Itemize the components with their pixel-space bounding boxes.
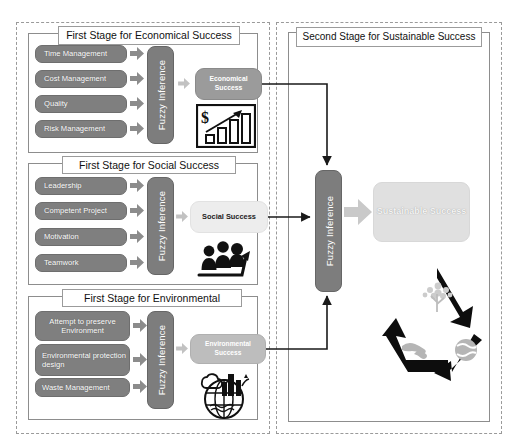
input-pill-environmental-protection-design: Environmental protection design: [35, 344, 130, 376]
arrow-protection-design-to-fuzzy-icon: [133, 353, 147, 366]
fuzzy-inference-economical: Fuzzy Inference: [147, 46, 174, 144]
bar-chart-dollar-growth-icon: $: [196, 104, 256, 148]
input-pill-attempt-to-preserve-environment: Attempt to preserve Environment: [35, 311, 130, 341]
input-pill-cost-management: Cost Management: [35, 70, 127, 88]
arrow-time-to-fuzzy-icon: [130, 47, 144, 60]
recycle-triangle-icon: [378, 262, 496, 384]
fuzzy-inference-label: Fuzzy Inference: [155, 60, 166, 131]
input-pill-competent-project: Competent Project: [35, 202, 127, 220]
input-pill-teamwork: Teamwork: [35, 254, 127, 272]
fuzzy-inference-social: Fuzzy Inference: [147, 177, 174, 275]
arrow-fuzzy-to-sustainable-icon: [344, 198, 372, 226]
arrow-motivation-to-fuzzy-icon: [130, 230, 144, 243]
economical-stage-caption: First Stage for Economical Success: [58, 26, 240, 45]
social-stage-caption: First Stage for Social Success: [62, 156, 236, 174]
environmental-stage-caption: First Stage for Environmental: [62, 289, 242, 307]
diagram-canvas: First Stage for Economical Success First…: [0, 0, 514, 447]
arrow-fuzzy-to-social-icon: [176, 211, 188, 222]
output-social-success: Social Success: [190, 201, 268, 233]
output-environmental-success: Environmental Success: [190, 334, 266, 364]
input-pill-risk-management: Risk Management: [35, 120, 127, 138]
arrow-waste-to-fuzzy-icon: [133, 380, 147, 393]
people-growth-arrow-icon: [196, 237, 258, 279]
svg-text:$: $: [201, 109, 209, 126]
input-pill-motivation: Motivation: [35, 228, 127, 246]
arrow-risk-to-fuzzy-icon: [130, 122, 144, 135]
input-pill-time-management: Time Management: [35, 45, 127, 63]
second-stage-caption: Second Stage for Sustainable Success: [296, 27, 482, 47]
fuzzy-inference-label: Fuzzy Inference: [323, 196, 334, 267]
arrow-preserve-to-fuzzy-icon: [133, 319, 147, 332]
fuzzy-inference-environmental: Fuzzy Inference: [147, 311, 174, 409]
globe-city-nature-icon: [196, 366, 252, 420]
input-pill-leadership: Leadership: [35, 177, 127, 195]
arrow-quality-to-fuzzy-icon: [130, 97, 144, 110]
arrow-teamwork-to-fuzzy-icon: [130, 256, 144, 269]
arrow-cost-to-fuzzy-icon: [130, 72, 144, 85]
output-economical-success: Economical Success: [195, 68, 262, 100]
input-pill-waste-management: Waste Management: [35, 378, 130, 397]
output-sustainable-success: Sustainable Success: [373, 182, 470, 242]
arrow-competent-project-to-fuzzy-icon: [130, 204, 144, 217]
fuzzy-inference-label: Fuzzy Inference: [155, 191, 166, 262]
arrow-fuzzy-to-economical-icon: [178, 78, 190, 89]
fuzzy-inference-second-stage: Fuzzy Inference: [315, 170, 342, 292]
fuzzy-inference-label: Fuzzy Inference: [155, 325, 166, 396]
arrow-leadership-to-fuzzy-icon: [130, 179, 144, 192]
arrow-fuzzy-to-environmental-icon: [176, 343, 188, 354]
input-pill-quality: Quality: [35, 95, 127, 113]
